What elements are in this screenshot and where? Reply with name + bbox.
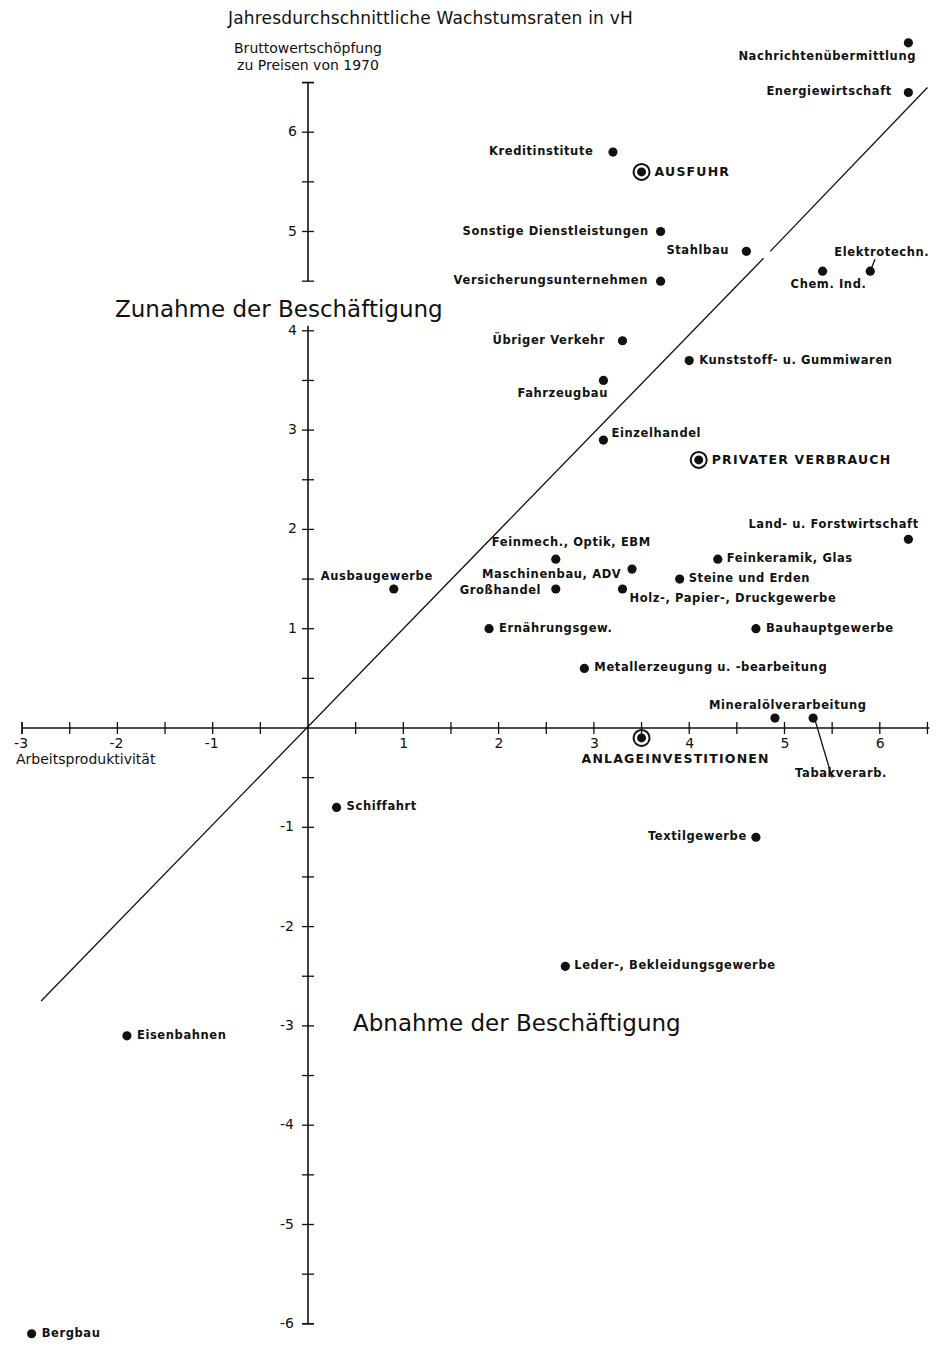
point-label-schiffahrt: Schiffahrt xyxy=(347,799,417,813)
point-marker-icon xyxy=(751,624,760,633)
x-axis-label: Arbeitsproduktivität xyxy=(16,751,155,767)
x-tick-label: 4 xyxy=(685,735,694,751)
point-marker-icon xyxy=(484,624,493,633)
point-marker-icon xyxy=(389,584,398,593)
point-marker-icon xyxy=(332,803,341,812)
y-tick-label: 5 xyxy=(288,223,297,239)
y-tick-label: -1 xyxy=(280,818,294,834)
x-tick-label: -2 xyxy=(109,735,123,751)
y-tick-label: -2 xyxy=(280,918,294,934)
point-marker-icon xyxy=(551,555,560,564)
y-axis-label-line1: Bruttowertschöpfung xyxy=(228,40,388,57)
point-marker-icon xyxy=(608,147,617,156)
y-tick-label: -4 xyxy=(280,1116,294,1132)
x-tick-label: 6 xyxy=(876,735,885,751)
point-marker-icon xyxy=(551,584,560,593)
point-marker-icon xyxy=(656,277,665,286)
plot-area xyxy=(0,0,940,1356)
x-tick-label: -1 xyxy=(205,735,219,751)
y-tick-label: -3 xyxy=(280,1017,294,1033)
point-marker-icon xyxy=(599,376,608,385)
point-marker-icon xyxy=(904,38,913,47)
point-marker-icon xyxy=(904,88,913,97)
region-label-increase: Zunahme der Beschäftigung xyxy=(115,296,443,322)
y-axis-label-line2: zu Preisen von 1970 xyxy=(228,57,388,74)
point-marker-icon xyxy=(627,565,636,574)
point-label-ausfuhr: AUSFUHR xyxy=(655,164,731,179)
x-tick-label: 5 xyxy=(781,735,790,751)
point-label-sonstige-dienstleistungen: Sonstige Dienstleistungen xyxy=(463,224,649,238)
point-label-leder-bekleidungsgewerbe: Leder-, Bekleidungsgewerbe xyxy=(574,958,775,972)
point-label-kreditinstitute: Kreditinstitute xyxy=(489,144,593,158)
point-marker-icon xyxy=(751,833,760,842)
point-marker-icon xyxy=(694,455,703,464)
x-tick-label: 2 xyxy=(495,735,504,751)
point-label-anlageinvestitionen: ANLAGEINVESTITIONEN xyxy=(582,751,770,766)
point-label-steine-und-erden: Steine und Erden xyxy=(689,571,810,585)
diagonal-reference-line xyxy=(770,88,927,252)
y-tick-label: 6 xyxy=(288,123,297,139)
point-label-holz-papier-druckgewerbe: Holz-, Papier-, Druckgewerbe xyxy=(629,591,836,605)
point-label-energiewirtschaft: Energiewirtschaft xyxy=(766,84,892,98)
point-marker-icon xyxy=(599,435,608,444)
point-marker-icon xyxy=(618,584,627,593)
point-marker-icon xyxy=(580,664,589,673)
point-marker-icon xyxy=(675,574,684,583)
diagonal-reference-line xyxy=(41,258,763,1001)
point-label-mineralölverarbeitung: Mineralölverarbeitung xyxy=(709,698,867,712)
chart-title: Jahresdurchschnittliche Wachstumsraten i… xyxy=(228,8,633,28)
point-label-maschinenbau-adv: Maschinenbau, ADV xyxy=(482,567,621,581)
point-label-bergbau: Bergbau xyxy=(42,1326,101,1340)
point-marker-icon xyxy=(770,713,779,722)
point-marker-icon xyxy=(618,336,627,345)
point-label-feinmech-optik-ebm: Feinmech., Optik, EBM xyxy=(492,535,651,549)
point-label-versicherungsunternehmen: Versicherungsunternehmen xyxy=(454,273,648,287)
scatter-chart: Jahresdurchschnittliche Wachstumsraten i… xyxy=(0,0,940,1356)
region-label-decrease: Abnahme der Beschäftigung xyxy=(353,1010,681,1036)
point-marker-icon xyxy=(27,1329,36,1338)
y-tick-label: 3 xyxy=(288,421,297,437)
point-marker-icon xyxy=(637,733,646,742)
point-label-privater-verbrauch: PRIVATER VERBRAUCH xyxy=(712,452,892,467)
y-tick-label: 1 xyxy=(288,620,297,636)
x-tick-label: -3 xyxy=(14,735,28,751)
point-label-elektrotechn: Elektrotechn. xyxy=(834,245,929,259)
point-marker-icon xyxy=(637,167,646,176)
point-marker-icon xyxy=(656,227,665,236)
point-label-fahrzeugbau: Fahrzeugbau xyxy=(517,386,608,400)
point-label-stahlbau: Stahlbau xyxy=(666,243,729,257)
point-label-land-u-forstwirtschaft: Land- u. Forstwirtschaft xyxy=(748,517,918,531)
y-tick-label: -6 xyxy=(280,1315,294,1331)
point-marker-icon xyxy=(808,713,817,722)
y-tick-label: 4 xyxy=(288,322,297,338)
point-marker-icon xyxy=(122,1031,131,1040)
point-label-ernährungsgew: Ernährungsgew. xyxy=(499,621,612,635)
point-label-einzelhandel: Einzelhandel xyxy=(611,426,701,440)
y-tick-label: 2 xyxy=(288,520,297,536)
point-marker-icon xyxy=(904,535,913,544)
point-label-feinkeramik-glas: Feinkeramik, Glas xyxy=(727,551,853,565)
y-tick-label: -5 xyxy=(280,1216,294,1232)
point-label-übriger-verkehr: Übriger Verkehr xyxy=(492,333,605,347)
point-label-kunststoff-u-gummiwaren: Kunststoff- u. Gummiwaren xyxy=(699,353,892,367)
point-marker-icon xyxy=(685,356,694,365)
point-label-bauhauptgewerbe: Bauhauptgewerbe xyxy=(766,621,894,635)
y-axis-label: Bruttowertschöpfung zu Preisen von 1970 xyxy=(228,40,388,74)
point-label-großhandel: Großhandel xyxy=(460,583,541,597)
point-marker-icon xyxy=(742,247,751,256)
x-tick-label: 1 xyxy=(399,735,408,751)
point-marker-icon xyxy=(561,962,570,971)
point-label-chem-ind: Chem. Ind. xyxy=(791,277,867,291)
x-tick-label: 3 xyxy=(590,735,599,751)
point-label-ausbaugewerbe: Ausbaugewerbe xyxy=(321,569,433,583)
point-label-nachrichtenübermittlung: Nachrichtenübermittlung xyxy=(738,49,916,63)
point-label-eisenbahnen: Eisenbahnen xyxy=(137,1028,227,1042)
point-marker-icon xyxy=(713,555,722,564)
point-label-metallerzeugung-u-bearbeitung: Metallerzeugung u. -bearbeitung xyxy=(594,660,827,674)
point-label-tabakverarb: Tabakverarb. xyxy=(795,766,887,780)
point-marker-icon xyxy=(818,267,827,276)
point-label-textilgewerbe: Textilgewerbe xyxy=(648,829,747,843)
